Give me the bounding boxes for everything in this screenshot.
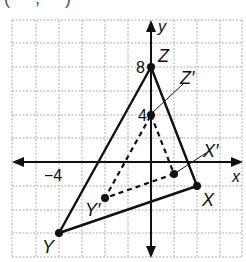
label-x: X [201, 190, 215, 210]
label-z: Z [157, 46, 170, 66]
triangle-x-prime-y-prime-z-prime [105, 115, 174, 198]
point-z-prime [147, 111, 155, 119]
y-tick-label-4: 4 [138, 107, 147, 124]
y-tick-label-8: 8 [136, 59, 145, 76]
point-x [193, 182, 201, 190]
axes [12, 20, 243, 258]
point-y [55, 229, 63, 237]
x-tick-label: −4 [44, 167, 62, 184]
label-y-prime: Y′ [85, 200, 101, 220]
point-y-prime [101, 194, 109, 202]
x-axis-label: x [231, 168, 241, 185]
label-z-prime: Z′ [179, 68, 195, 88]
label-x-prime: X′ [202, 141, 219, 161]
y-axis-label: y [157, 18, 167, 35]
point-z [147, 63, 155, 71]
coordinate-plane: y x −4 8 4 Z X Y Z′ X′ Y′ [0, 0, 246, 262]
point-x-prime [170, 170, 178, 178]
label-y: Y [42, 237, 56, 257]
grid [12, 20, 242, 257]
